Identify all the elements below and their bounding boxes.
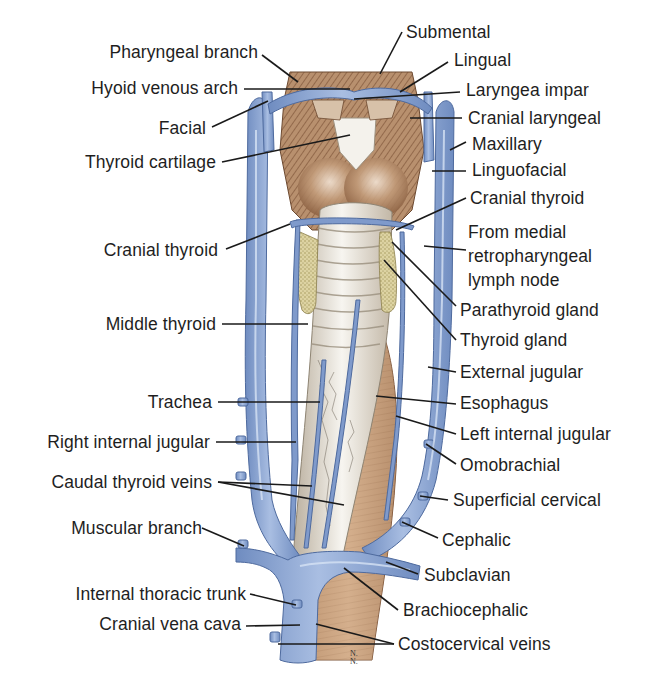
label-caudal-thyroid-veins: Caudal thyroid veins — [51, 472, 212, 492]
label-from-medial-retropharyngeal-lymph-node: From medial retropharyngeal lymph node — [468, 220, 592, 292]
label-esophagus: Esophagus — [460, 393, 548, 413]
leader-line — [380, 32, 402, 74]
label-lingual: Lingual — [454, 50, 511, 70]
leader-line — [202, 528, 244, 546]
label-linguofacial: Linguofacial — [472, 160, 567, 180]
label-right-internal-jugular: Right internal jugular — [47, 432, 210, 452]
label-muscular-branch: Muscular branch — [71, 518, 202, 538]
label-middle-thyroid: Middle thyroid — [106, 314, 216, 334]
leader-line — [396, 416, 456, 434]
label-parathyroid-gland: Parathyroid gland — [460, 300, 599, 320]
label-costocervical-veins: Costocervical veins — [398, 634, 551, 654]
label-trachea: Trachea — [148, 392, 212, 412]
label-omobrachial: Omobrachial — [460, 455, 560, 475]
label-brachiocephalic: Brachiocephalic — [403, 600, 528, 620]
label-external-jugular: External jugular — [460, 362, 583, 382]
label-maxillary: Maxillary — [472, 134, 542, 154]
svg-text:N.: N. — [350, 657, 358, 666]
label-thyroid-cartilage: Thyroid cartilage — [85, 152, 216, 172]
label-internal-thoracic-trunk: Internal thoracic trunk — [75, 584, 246, 604]
label-subclavian: Subclavian — [424, 565, 511, 585]
label-thyroid-gland: Thyroid gland — [460, 330, 567, 350]
leader-line — [246, 625, 300, 626]
label-superficial-cervical: Superficial cervical — [453, 490, 601, 510]
label-cranial-laryngeal: Cranial laryngeal — [468, 108, 601, 128]
leader-line — [262, 55, 298, 82]
label-submental: Submental — [406, 22, 491, 42]
label-laryngea-impar: Laryngea impar — [466, 80, 589, 100]
label-cranial-vena-cava: Cranial vena cava — [99, 614, 241, 634]
label-facial: Facial — [159, 118, 206, 138]
label-cranial-thyroid-left: Cranial thyroid — [104, 240, 218, 260]
label-hyoid-venous-arch: Hyoid venous arch — [91, 78, 238, 98]
label-cranial-thyroid-right: Cranial thyroid — [470, 188, 584, 208]
anatomy-figure: N. N. Pharyngeal branch Hyoid venous arc… — [0, 0, 653, 674]
label-left-internal-jugular: Left internal jugular — [460, 424, 611, 444]
label-pharyngeal-branch: Pharyngeal branch — [109, 42, 258, 62]
label-cephalic: Cephalic — [442, 530, 511, 550]
